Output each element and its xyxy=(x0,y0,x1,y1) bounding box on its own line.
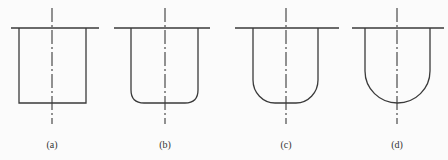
figure-label-c: (c) xyxy=(280,139,291,150)
figure-b xyxy=(114,8,210,124)
figure-label-a: (a) xyxy=(46,139,57,150)
figure-label-d: (d) xyxy=(391,139,403,150)
figure-d xyxy=(352,8,444,124)
figure-c xyxy=(235,8,339,124)
figure-a xyxy=(11,8,99,124)
vessel-bottom-diagram xyxy=(0,0,448,160)
figure-label-b: (b) xyxy=(159,139,171,150)
